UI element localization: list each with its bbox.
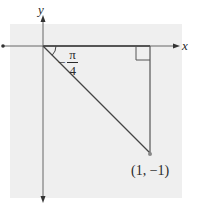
diagram-canvas bbox=[0, 0, 207, 212]
point-marker bbox=[148, 152, 152, 156]
angle-label: − π 4 bbox=[58, 48, 78, 77]
point-label: (1, −1) bbox=[131, 164, 169, 178]
angle-denominator: 4 bbox=[69, 63, 76, 77]
x-axis-left-endpoint bbox=[1, 44, 5, 48]
y-axis-label: y bbox=[38, 3, 44, 16]
angle-fraction: π 4 bbox=[67, 48, 78, 77]
unit-circle-triangle-diagram: y x − π 4 (1, −1) bbox=[0, 0, 207, 212]
x-axis-label: x bbox=[182, 39, 188, 52]
angle-numerator: π bbox=[67, 48, 78, 63]
y-axis-down-arrow-icon bbox=[41, 196, 46, 203]
angle-sign: − bbox=[58, 56, 65, 69]
